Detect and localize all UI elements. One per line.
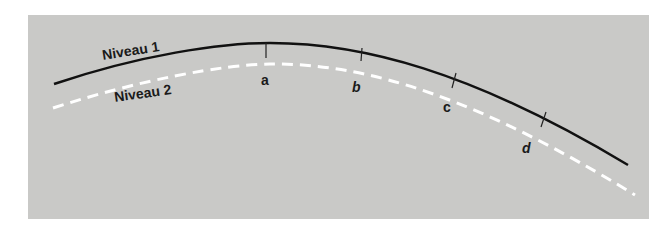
curve-niveau-1 bbox=[54, 43, 628, 165]
label-niveau-2: Niveau 2 bbox=[113, 81, 172, 105]
curvature-diagram: Niveau 1 Niveau 2 a b c d bbox=[0, 0, 672, 229]
label-point-a: a bbox=[261, 72, 269, 88]
label-point-d: d bbox=[522, 140, 531, 156]
label-point-c: c bbox=[443, 99, 451, 115]
curve-niveau-2 bbox=[53, 64, 635, 195]
label-point-b: b bbox=[352, 79, 361, 95]
label-niveau-1: Niveau 1 bbox=[101, 38, 161, 63]
